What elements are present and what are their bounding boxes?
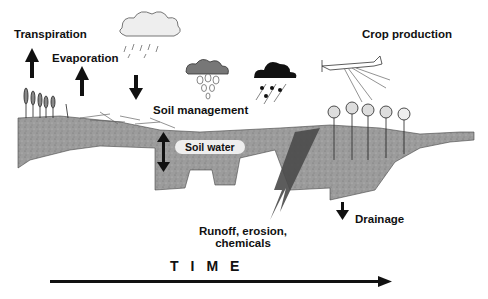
label-runoff-line1: Runoff, erosion, [188, 225, 298, 237]
dark-storm-cloud-icon [254, 62, 296, 104]
label-transpiration: Transpiration [14, 28, 87, 40]
up-arrow-icon-transpiration [25, 48, 39, 78]
label-runoff-line2: chemicals [188, 237, 298, 249]
time-arrow-icon [50, 276, 392, 287]
label-crop-production: Crop production [362, 28, 452, 40]
down-arrow-icon-rain [129, 75, 143, 100]
soil-profile [18, 116, 474, 200]
label-soil-management: Soil management [153, 104, 248, 116]
label-soil-water: Soil water [175, 140, 245, 154]
up-arrow-icon-evaporation [75, 66, 89, 96]
label-drainage: Drainage [355, 213, 404, 225]
label-evaporation: Evaporation [52, 52, 118, 64]
label-time-axis: TIME [170, 258, 251, 274]
light-rain-cloud-icon [120, 12, 181, 58]
small-plants-icon [24, 88, 68, 118]
down-arrow-icon-drainage [336, 202, 349, 220]
gray-raindrop-cloud-icon [186, 59, 228, 99]
crop-duster-plane-icon [322, 56, 390, 102]
label-runoff: Runoff, erosion, chemicals [188, 225, 298, 249]
